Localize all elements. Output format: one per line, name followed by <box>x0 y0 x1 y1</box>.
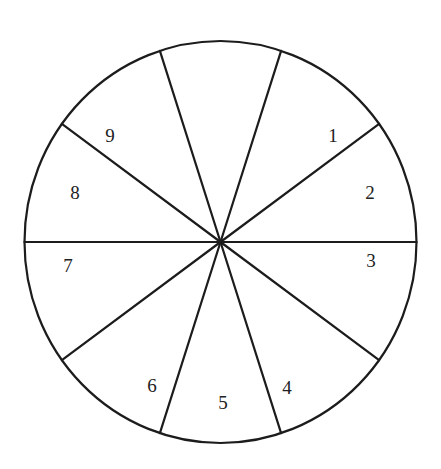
spinner-wheel: 1 2 3 4 5 6 7 8 9 <box>0 0 441 469</box>
sector-label-5: 5 <box>218 392 228 413</box>
sector-label-3: 3 <box>366 250 376 271</box>
sector-label-2: 2 <box>365 182 375 203</box>
sector-label-9: 9 <box>105 125 115 146</box>
sector-label-7: 7 <box>63 255 73 276</box>
sector-label-8: 8 <box>70 182 80 203</box>
sector-label-6: 6 <box>147 375 157 396</box>
sector-label-1: 1 <box>328 125 338 146</box>
sector-label-4: 4 <box>282 377 292 398</box>
